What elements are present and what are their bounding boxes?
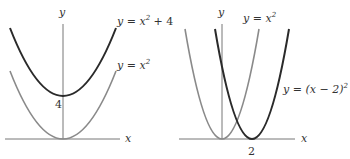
left-graph: y x 4 y = x2 + 4 y = x2	[5, 6, 173, 145]
left-lower-curve-label: y = x2	[116, 58, 151, 72]
figure: y x 4 y = x2 + 4 y = x2 y x 2 y = x2 y =…	[0, 0, 350, 159]
left-tick-4: 4	[55, 98, 62, 111]
right-graph: y x 2 y = x2 y = (x − 2)2	[179, 6, 348, 158]
right-curve-x-minus-2-squared	[215, 29, 289, 139]
right-x-label: x	[301, 132, 308, 145]
left-y-label: y	[58, 6, 66, 19]
right-y-label: y	[217, 6, 225, 19]
right-tick-2: 2	[248, 145, 255, 158]
left-x-label: x	[125, 132, 132, 145]
left-upper-curve-label: y = x2 + 4	[116, 14, 173, 28]
right-shifted-curve-label: y = (x − 2)2	[282, 82, 348, 96]
right-base-curve-label: y = x2	[242, 11, 277, 25]
